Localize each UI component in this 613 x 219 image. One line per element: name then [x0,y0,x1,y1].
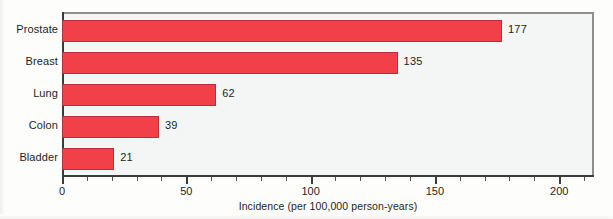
x-tick-major [62,177,64,184]
bar-value-label: 39 [165,119,178,131]
x-tick-minor [360,177,361,181]
x-tick-major [559,177,561,184]
bar-row: 39 [62,111,594,143]
x-tick-label: 200 [550,185,568,197]
category-label: Prostate [0,23,58,35]
x-axis-title: Incidence (per 100,000 person-years) [62,200,594,212]
x-tick-minor [87,177,88,181]
x-tick-label: 100 [301,185,319,197]
bar-row: 177 [62,15,594,47]
bar [62,52,398,74]
bar-row: 62 [62,79,594,111]
x-tick-minor [584,177,585,181]
x-axis-line [62,175,594,177]
bar-row: 21 [62,143,594,175]
x-tick-minor [509,177,510,181]
x-tick-minor [236,177,237,181]
x-tick-minor [385,177,386,181]
bar-value-label: 62 [222,87,235,99]
x-tick-minor [211,177,212,181]
bar-value-label: 135 [404,55,423,67]
bar-chart: ProstateBreastLungColonBladder 177135623… [0,0,613,219]
x-tick-minor [161,177,162,181]
x-tick-major [311,177,313,184]
x-tick-minor [534,177,535,181]
x-tick-major [186,177,188,184]
bar-value-label: 177 [508,23,527,35]
x-tick-label: 150 [426,185,444,197]
bar [62,148,114,170]
bar-value-label: 21 [120,151,133,163]
bar [62,84,216,106]
x-tick-label: 0 [59,185,65,197]
x-tick-minor [137,177,138,181]
scan-edge-shading-bottom [0,214,613,219]
bars-layer: 177135623921 [62,12,594,175]
x-tick-label: 50 [180,185,192,197]
category-label: Colon [0,119,58,131]
category-label: Lung [0,87,58,99]
category-label: Bladder [0,151,58,163]
bar [62,116,159,138]
bar [62,20,502,42]
x-tick-minor [261,177,262,181]
x-tick-minor [485,177,486,181]
category-axis-labels: ProstateBreastLungColonBladder [0,12,58,175]
category-label: Breast [0,55,58,67]
bar-row: 135 [62,47,594,79]
x-tick-minor [335,177,336,181]
x-tick-minor [410,177,411,181]
x-tick-minor [286,177,287,181]
x-tick-major [435,177,437,184]
x-tick-minor [112,177,113,181]
x-tick-minor [460,177,461,181]
